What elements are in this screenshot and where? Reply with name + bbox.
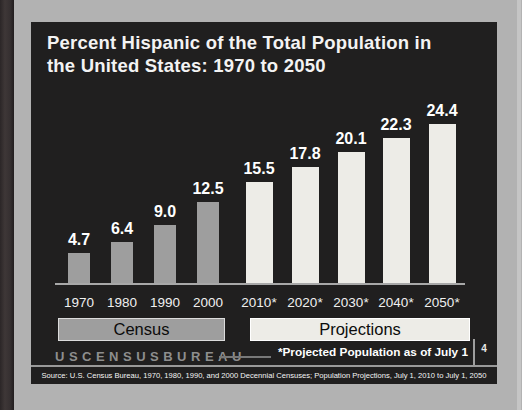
page-number: 4 <box>477 343 491 354</box>
bar-2000 <box>197 202 219 284</box>
bar-2010 <box>246 182 273 284</box>
year-label: 2050* <box>412 295 472 310</box>
projections-group-label: Projections <box>250 318 470 341</box>
us-census-bureau-logo: USCENSUSBUREAU <box>55 349 246 364</box>
slide: Percent Hispanic of the Total Population… <box>0 0 522 410</box>
bar-2030 <box>338 152 365 284</box>
logo-rule <box>219 356 271 358</box>
projection-footnote: *Projected Population as of July 1 <box>278 345 468 359</box>
bar-value-label: 24.4 <box>412 102 472 120</box>
bar-1980 <box>111 242 133 284</box>
census-group-label: Census <box>58 318 225 341</box>
x-axis-line <box>55 283 465 285</box>
bar-1970 <box>68 253 90 284</box>
bar-value-label: 9.0 <box>135 203 195 221</box>
chart-panel: Percent Hispanic of the Total Population… <box>31 22 497 384</box>
slide-film-edge <box>0 0 14 410</box>
source-citation: Source: U.S. Census Bureau, 1970, 1980, … <box>31 367 497 384</box>
bar-1990 <box>154 225 176 284</box>
bar-2040 <box>383 138 410 284</box>
page-number-divider <box>473 339 475 365</box>
bar-2020 <box>292 167 319 284</box>
bar-value-label: 12.5 <box>178 180 238 198</box>
slide-right-edge-highlight <box>517 0 521 410</box>
bar-value-label: 6.4 <box>92 220 152 238</box>
bar-2050 <box>429 124 456 284</box>
